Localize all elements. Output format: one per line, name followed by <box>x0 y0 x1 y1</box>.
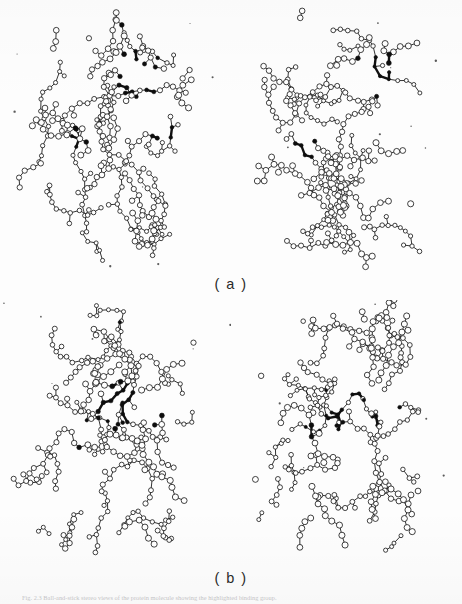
atom-open <box>56 133 62 139</box>
atom-open <box>405 43 411 49</box>
atom-solid <box>159 413 164 418</box>
scan-speck <box>212 76 214 78</box>
scan-speck <box>303 467 304 468</box>
atom-open <box>143 501 148 506</box>
atom-solid <box>113 426 118 431</box>
atom-open <box>292 97 296 101</box>
atom-open <box>128 363 134 369</box>
atom-open <box>370 206 376 212</box>
atom-open <box>396 79 400 83</box>
atom-open <box>84 221 88 225</box>
atom-open <box>111 115 117 121</box>
atom-open <box>40 144 44 148</box>
atom-open <box>87 535 92 540</box>
atom-open <box>131 422 136 427</box>
atom-open <box>280 120 285 125</box>
atom-open <box>410 409 415 414</box>
atom-open <box>182 422 186 426</box>
atom-open <box>50 118 56 124</box>
atom-open <box>353 151 357 155</box>
atom-open <box>84 185 90 191</box>
atom-open <box>394 148 400 154</box>
atom-open <box>348 248 352 252</box>
atom-open <box>354 29 358 33</box>
atom-open <box>338 184 344 190</box>
atom-open <box>338 27 343 32</box>
atom-open <box>308 466 313 471</box>
atom-open <box>391 300 397 303</box>
atom-open <box>322 346 327 351</box>
molecule-view-a-left <box>0 0 231 272</box>
atom-open <box>60 543 64 547</box>
atom-open <box>289 132 294 137</box>
atom-open <box>54 207 59 212</box>
atom-open <box>358 47 364 53</box>
atom-open <box>138 88 143 93</box>
atom-open <box>302 519 308 525</box>
atom-open <box>415 474 420 479</box>
atom-open <box>125 378 131 384</box>
atom-open <box>366 104 371 109</box>
atom-open <box>159 369 164 374</box>
atom-open <box>350 499 355 504</box>
atom-open <box>180 76 185 81</box>
atom-open <box>79 126 85 132</box>
atom-open <box>354 240 360 246</box>
atom-open <box>47 446 52 451</box>
atom-open <box>100 373 106 379</box>
atom-open <box>100 482 105 487</box>
atom-open <box>262 77 267 82</box>
atom-open <box>409 529 415 535</box>
atom-open <box>122 356 128 362</box>
atom-open <box>124 454 130 460</box>
atom-solid <box>378 75 381 78</box>
atom-open <box>105 46 111 52</box>
atom-solid <box>134 49 138 53</box>
atom-open <box>331 313 336 318</box>
atom-open <box>101 147 106 152</box>
atom-open <box>22 168 27 173</box>
atom-layer <box>254 8 422 270</box>
atom-solid <box>299 144 303 148</box>
atom-open <box>369 506 375 512</box>
atom-open <box>354 177 358 181</box>
atom-solid <box>374 94 378 98</box>
atom-solid <box>110 384 115 389</box>
atom-open <box>305 231 310 236</box>
scan-speck <box>425 418 427 420</box>
atom-open <box>179 360 185 366</box>
atom-open <box>369 411 374 416</box>
atom-open <box>92 96 97 101</box>
atom-open <box>353 194 359 200</box>
atom-open <box>334 234 339 239</box>
atom-open <box>394 363 399 368</box>
panel-label-a: ( a ) <box>0 276 462 292</box>
molecule-svg <box>231 0 462 272</box>
atom-open <box>391 344 397 350</box>
atom-open <box>342 542 348 548</box>
atom-open <box>122 523 128 529</box>
atom-open <box>366 158 371 163</box>
atom-open <box>275 169 281 175</box>
atom-open <box>151 541 157 547</box>
atom-open <box>134 228 140 234</box>
atom-open <box>312 325 318 331</box>
atom-open <box>99 53 104 58</box>
atom-solid <box>117 83 121 87</box>
atom-open <box>375 448 380 453</box>
atom-open <box>386 352 392 358</box>
atom-open <box>273 445 277 449</box>
atom-open <box>102 437 107 442</box>
atom-open <box>343 505 348 510</box>
atom-open <box>293 471 298 476</box>
atom-open <box>368 432 373 437</box>
atom-open <box>383 479 389 485</box>
atom-open <box>61 533 66 538</box>
atom-open <box>120 185 125 190</box>
atom-open <box>319 225 324 230</box>
atom-open <box>363 264 369 270</box>
atom-open <box>108 369 114 375</box>
atom-open <box>334 321 339 326</box>
atom-open <box>31 165 36 170</box>
atom-open <box>148 354 153 359</box>
